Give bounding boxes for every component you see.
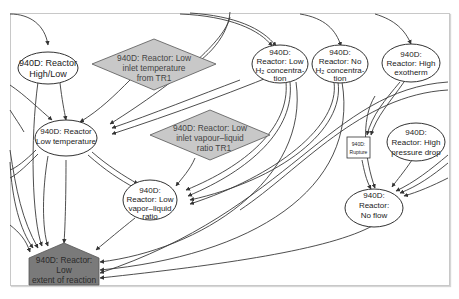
node-low-inlet-temperature[interactable]: 940D: Reactor: Low inlet temperature fro… (92, 39, 216, 90)
node-high-exotherm[interactable]: 940D: Reactor: High exotherm (382, 44, 440, 82)
node-label: Reactor: No (319, 57, 362, 66)
node-label: ratio TR1 (197, 143, 232, 153)
node-label: ratio (142, 212, 158, 221)
node-label: 940D: (400, 50, 421, 59)
node-label: tion (334, 74, 347, 83)
node-label: inlet vapour–liquid (176, 133, 244, 143)
node-label: 940D: (139, 186, 160, 195)
node-label: 940D: (352, 141, 365, 147)
node-label: High/Low (29, 69, 67, 79)
node-label: Reactor: Low (256, 57, 303, 66)
node-rupture[interactable]: 940D: Rupture (347, 137, 370, 158)
node-low-temperature[interactable]: 940D: Reactor Low temperature (35, 120, 97, 156)
node-label: Reactor: Low (126, 195, 173, 204)
node-label: 940D: Reactor (40, 127, 92, 136)
node-low-inlet-vapour-liquid[interactable]: 940D: Reactor: Low inlet vapour–liquid r… (150, 110, 270, 160)
node-label: 940D: Reactor (19, 58, 77, 68)
node-label: 940D: (329, 48, 350, 57)
node-low-vapor-liquid-ratio[interactable]: 940D: Reactor: Low vapor–liquid ratio (123, 180, 177, 221)
node-high-pressure-drop[interactable]: 940D: Reactor: High pressure drop (387, 123, 445, 161)
node-label: Rupture (350, 149, 368, 155)
node-label: pressure drop (391, 148, 441, 157)
node-label: exotherm (394, 68, 428, 77)
node-label: from TR1 (137, 73, 172, 83)
node-label: 940D: Reactor: (36, 255, 92, 265)
node-label: Reactor: High (392, 138, 441, 147)
node-label: 940D: (405, 128, 426, 137)
node-label: Low temperature (36, 137, 97, 146)
node-label: extent of reaction (32, 275, 97, 285)
node-label: No flow (361, 211, 388, 220)
node-no-h2-concentration[interactable]: 940D: Reactor: No H₂ concentra- tion (312, 45, 368, 83)
node-label: 940D: Reactor: Low (173, 123, 248, 133)
node-label: Reactor: High (387, 59, 436, 68)
node-no-flow[interactable]: 940D: Reactor: No flow (345, 189, 403, 227)
node-label: inlet temperature (123, 63, 186, 73)
node-label: Reactor: (359, 201, 389, 210)
node-label: Low (56, 265, 72, 275)
node-label: 940D: (269, 48, 290, 57)
node-label: 940D: (363, 191, 384, 200)
node-low-extent-of-reaction[interactable]: 940D: Reactor: Low extent of reaction (29, 243, 99, 285)
cause-effect-diagram: 940D: Reactor High/Low 940D: Reactor: Lo… (0, 0, 459, 299)
node-label: 940D: Reactor: Low (117, 53, 192, 63)
node-low-h2-concentration[interactable]: 940D: Reactor: Low H₂ concentra- tion (252, 45, 308, 83)
node-high-low[interactable]: 940D: Reactor High/Low (18, 52, 78, 84)
node-label: tion (274, 74, 287, 83)
